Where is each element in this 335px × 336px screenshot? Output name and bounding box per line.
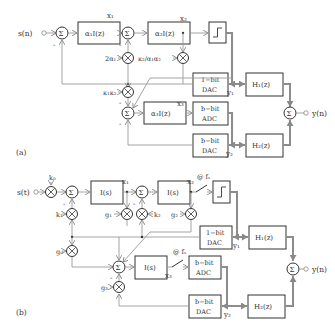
block-label: DAC	[202, 147, 217, 155]
block-label: α₂I(z)	[155, 30, 175, 38]
sample-rate-label: @ fₛ	[173, 248, 186, 256]
gain-label: g₃	[101, 284, 108, 292]
block-label: b−bit	[195, 298, 214, 306]
sum-symbol: Σ	[287, 110, 292, 118]
gain-label: k₁	[56, 211, 63, 219]
minus-sign: -	[110, 274, 113, 282]
signal-label-y1: y₁	[232, 242, 240, 250]
gain-label: k₀	[49, 174, 56, 182]
block-label: H₂(z)	[254, 303, 272, 311]
input-port-a	[42, 31, 46, 35]
signal-label-x3: x₃	[177, 100, 184, 108]
sum-symbol: Σ	[125, 110, 130, 118]
input-label-b: s(t)	[17, 188, 30, 197]
output-label-b: y(n)	[311, 265, 327, 274]
minus-sign: -	[119, 99, 122, 107]
signal-label-x2: x₂	[180, 15, 187, 23]
block-label: ADC	[195, 269, 211, 277]
signal-label-y2: y₂	[223, 311, 231, 319]
block-label: I(s)	[144, 264, 156, 272]
minus-sign: -	[53, 41, 56, 49]
sum-symbol: Σ	[125, 30, 130, 38]
signal-label-x2: x₂	[187, 178, 194, 186]
block-label: α₁I(z)	[85, 30, 105, 38]
block-label: b−bit	[201, 137, 220, 145]
block-label: H₁(z)	[255, 234, 273, 242]
sample-rate-label: @ fₛ	[197, 173, 210, 181]
diagram-a: s(n) Σ - α₁I(z) x₁ Σ - α₂I(z) x₂ κ₂/α₁α	[16, 12, 327, 158]
block-label: b−bit	[201, 105, 220, 113]
signal-label-x1: x₁	[107, 12, 114, 20]
block-label: α₃I(z)	[151, 110, 171, 118]
signal-label-x1: x₁	[122, 178, 129, 186]
block-label: DAC	[202, 86, 217, 94]
gain-label: g₁	[105, 211, 112, 219]
gain-label: 2α₁	[105, 55, 117, 63]
block-label: I(s)	[100, 189, 112, 197]
minus-sign: -	[119, 41, 122, 49]
sum-symbol: Σ	[59, 30, 64, 38]
block-label: b−bit	[195, 259, 214, 267]
signal-label-x3: x₃	[165, 272, 172, 280]
sum-symbol: Σ	[116, 264, 121, 272]
gain-label: k₂	[154, 211, 161, 219]
block-label: H₂(z)	[252, 142, 270, 150]
output-port-b	[304, 267, 308, 271]
gain-label: g₂	[171, 211, 178, 219]
sampling-switch-b1	[196, 185, 207, 192]
minus-sign: -	[119, 120, 122, 128]
signal-label-y2: y₂	[225, 150, 233, 158]
block-label: DAC	[207, 239, 222, 247]
minus-sign: -	[133, 200, 136, 208]
diagram-canvas: s(n) Σ - α₁I(z) x₁ Σ - α₂I(z) x₂ κ₂/α₁α	[0, 0, 335, 336]
signal-label-y1: y₁	[226, 89, 234, 97]
gain-label: g₀	[56, 248, 63, 256]
output-port-a	[304, 111, 308, 115]
block-label: 1−bit	[201, 76, 220, 84]
minus-sign: -	[63, 200, 66, 208]
block-label: H₁(z)	[252, 81, 270, 89]
block-label: DAC	[196, 308, 211, 316]
sum-symbol: Σ	[69, 189, 74, 197]
sum-symbol: Σ	[290, 266, 295, 274]
caption-a: (a)	[16, 148, 26, 157]
input-label-a: s(n)	[18, 29, 33, 38]
gain-label: κ₁κ₂	[103, 89, 117, 97]
output-label-a: y(n)	[311, 109, 327, 118]
sum-symbol: Σ	[139, 189, 144, 197]
diagram-b: s(t) k₀ Σ - I(s) x₁ Σ - I(s) x₂ @ fₛ	[16, 173, 327, 319]
caption-b: (b)	[16, 308, 27, 317]
block-label: 1−bit	[206, 229, 225, 237]
gain-label: κ₂/α₁α₂	[138, 55, 161, 63]
block-label: ADC	[201, 115, 217, 123]
block-label: I(s)	[167, 189, 179, 197]
sampling-switch-b2	[172, 260, 183, 267]
